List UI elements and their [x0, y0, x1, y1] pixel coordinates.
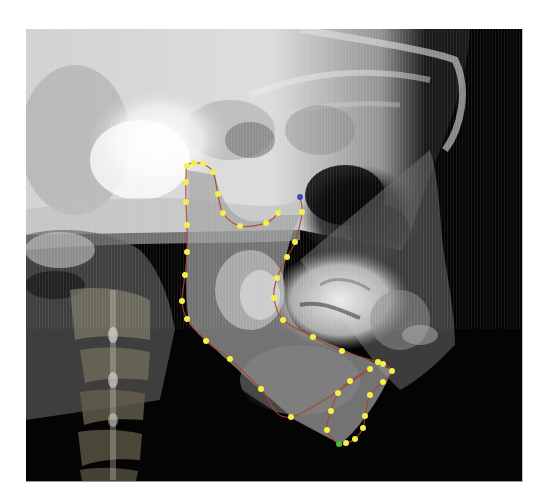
landmark-point	[184, 249, 190, 255]
landmark-point	[362, 413, 368, 419]
landmark-point	[184, 316, 190, 322]
landmark-point	[343, 440, 349, 446]
landmark-point	[339, 348, 345, 354]
landmark-point	[227, 356, 233, 362]
mandible-tracing-overlay	[0, 0, 545, 499]
landmark-point	[274, 275, 280, 281]
landmark-point	[271, 295, 277, 301]
landmark-point	[215, 191, 221, 197]
landmark-point	[360, 425, 366, 431]
landmark-point	[182, 272, 188, 278]
landmark-point	[263, 220, 269, 226]
landmark-points	[179, 160, 395, 447]
landmark-point-start	[297, 194, 303, 200]
landmark-point	[352, 436, 358, 442]
landmark-point	[380, 361, 386, 367]
landmark-point	[258, 386, 264, 392]
landmark-point	[237, 223, 243, 229]
landmark-point	[183, 179, 189, 185]
landmark-point	[324, 427, 330, 433]
landmark-point	[184, 222, 190, 228]
landmark-point	[299, 209, 305, 215]
landmark-point	[203, 338, 209, 344]
landmark-point	[367, 366, 373, 372]
landmark-point	[191, 160, 197, 166]
landmark-point	[280, 317, 286, 323]
landmark-point	[347, 378, 353, 384]
landmark-point	[288, 414, 294, 420]
mandible-outline-path	[182, 163, 392, 445]
landmark-point	[380, 379, 386, 385]
landmark-point	[275, 210, 281, 216]
landmark-point	[179, 298, 185, 304]
landmark-point	[389, 368, 395, 374]
landmark-point	[310, 334, 316, 340]
landmark-point	[184, 163, 190, 169]
landmark-point	[292, 239, 298, 245]
landmark-point	[220, 210, 226, 216]
landmark-point	[200, 161, 206, 167]
landmark-point	[328, 408, 334, 414]
figure-caption	[26, 488, 522, 499]
landmark-point	[183, 199, 189, 205]
landmark-point-menton	[336, 441, 342, 447]
landmark-point	[335, 390, 341, 396]
landmark-point	[210, 169, 216, 175]
landmark-point	[367, 392, 373, 398]
landmark-point	[284, 254, 290, 260]
